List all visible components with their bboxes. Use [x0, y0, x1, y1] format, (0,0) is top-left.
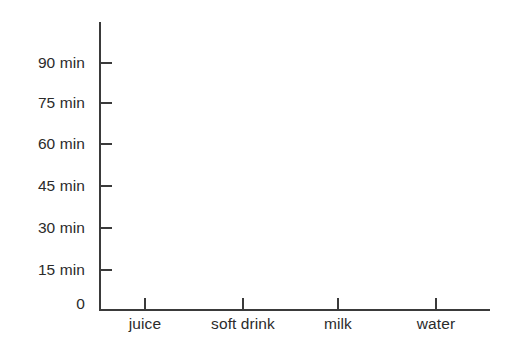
y-axis-tick-label: 0 — [0, 295, 99, 313]
x-axis-category-label: milk — [324, 315, 352, 333]
x-axis-tick — [435, 298, 437, 309]
y-axis-tick — [101, 143, 112, 145]
y-axis-tick-label: 60 min — [0, 135, 99, 153]
y-axis-tick-label: 90 min — [0, 54, 99, 72]
y-axis-tick — [101, 269, 112, 271]
y-axis-tick-label: 75 min — [0, 94, 99, 112]
y-axis-tick-label: 30 min — [0, 219, 99, 237]
y-axis-tick — [101, 227, 112, 229]
x-axis-tick — [337, 298, 339, 309]
plot-area — [101, 22, 490, 309]
x-axis-category-label: juice — [129, 315, 161, 333]
x-axis-tick — [144, 298, 146, 309]
chart-container: 90 min75 min60 min45 min30 min15 min0 ju… — [0, 0, 516, 354]
y-axis-tick — [101, 185, 112, 187]
y-axis-tick-label: 15 min — [0, 261, 99, 279]
y-axis-tick-label: 45 min — [0, 177, 99, 195]
x-axis-line — [99, 309, 490, 311]
x-axis-category-label: soft drink — [211, 315, 275, 333]
x-axis-tick — [242, 298, 244, 309]
y-axis-tick — [101, 62, 112, 64]
x-axis-category-label: water — [417, 315, 455, 333]
y-axis-tick — [101, 102, 112, 104]
